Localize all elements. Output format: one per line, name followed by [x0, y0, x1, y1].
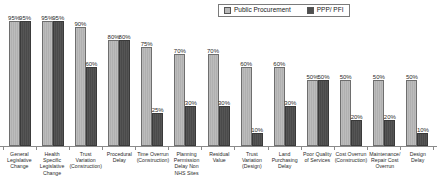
- bar-value-label: 95%: [19, 14, 31, 22]
- bar-group: 75%25%: [136, 14, 169, 146]
- chart-legend: Public Procurement PPP/ PFI: [218, 4, 350, 17]
- axis-tick: [433, 146, 434, 150]
- bar-value-label: 50%: [317, 73, 329, 81]
- bar-ppp-pfi: 30%: [219, 106, 230, 146]
- category-label: Maintenance/ Repair Cost Overrun: [368, 151, 401, 176]
- bar-group: 80%80%: [102, 14, 135, 146]
- bar-slot: 50%: [373, 14, 384, 146]
- bar-group: 90%60%: [69, 14, 102, 146]
- category-label: Procedural Delay: [103, 151, 136, 176]
- bar-public-procurement: 50%: [406, 80, 417, 146]
- bar-ppp-pfi: 60%: [86, 67, 97, 146]
- bar-ppp-pfi: 25%: [152, 113, 163, 146]
- bar-slot: 10%: [252, 14, 263, 146]
- bar-ppp-pfi: 30%: [185, 106, 196, 146]
- bar-group: 70%30%: [169, 14, 202, 146]
- bar-value-label: 50%: [373, 73, 385, 81]
- axis-tick: [201, 146, 202, 150]
- bar-group: 50%10%: [401, 14, 434, 146]
- bar-value-label: 60%: [240, 60, 252, 68]
- bar-group: 50%50%: [301, 14, 334, 146]
- bar-slot: 90%: [75, 14, 86, 146]
- legend-item-ppp-pfi: PPP/ PFI: [307, 7, 344, 14]
- category-label: Planning Permission Delay Non NHS Sites: [170, 151, 203, 176]
- bar-public-procurement: 95%: [42, 21, 53, 146]
- axis-tick: [334, 146, 335, 150]
- bar-chart: Public Procurement PPP/ PFI 95%95%95%95%…: [0, 0, 437, 193]
- bar-value-label: 30%: [284, 99, 296, 107]
- bar-ppp-pfi: 10%: [417, 133, 428, 146]
- axis-tick: [69, 146, 70, 150]
- bar-value-label: 95%: [52, 14, 64, 22]
- legend-label-public-procurement: Public Procurement: [234, 7, 291, 14]
- bar-ppp-pfi: 80%: [119, 40, 130, 146]
- axis-tick: [102, 146, 103, 150]
- category-label: General Legislative Change: [3, 151, 36, 176]
- bar-public-procurement: 75%: [141, 47, 152, 146]
- bar-value-label: 10%: [417, 126, 429, 134]
- bar-slot: 70%: [174, 14, 185, 146]
- axis-tick: [234, 146, 235, 150]
- bar-public-procurement: 80%: [108, 40, 119, 146]
- bar-slot: 50%: [340, 14, 351, 146]
- bar-public-procurement: 60%: [274, 67, 285, 146]
- bar-value-label: 25%: [152, 106, 164, 114]
- bar-group: 60%10%: [235, 14, 268, 146]
- bar-ppp-pfi: 50%: [318, 80, 329, 146]
- bar-ppp-pfi: 30%: [285, 106, 296, 146]
- bar-value-label: 75%: [141, 40, 153, 48]
- bar-value-label: 60%: [273, 60, 285, 68]
- bar-public-procurement: 50%: [340, 80, 351, 146]
- category-label: Time Overrun (Construction): [136, 151, 171, 176]
- bar-ppp-pfi: 10%: [252, 133, 263, 146]
- bar-slot: 95%: [9, 14, 20, 146]
- bar-group: 95%95%: [36, 14, 69, 146]
- category-label: Trust Variation (Construction): [68, 151, 103, 176]
- bar-value-label: 50%: [340, 73, 352, 81]
- legend-item-public-procurement: Public Procurement: [224, 7, 291, 14]
- bar-slot: 30%: [185, 14, 196, 146]
- category-label: Trust Variation (Design): [236, 151, 269, 176]
- x-axis-category-labels: General Legislative ChangeHealth Specifi…: [0, 151, 437, 176]
- category-label: Cost Overrun (Construction): [334, 151, 369, 176]
- category-label: Design Delay: [401, 151, 434, 176]
- axis-tick: [135, 146, 136, 150]
- bar-group: 70%30%: [202, 14, 235, 146]
- bar-slot: 20%: [351, 14, 362, 146]
- bar-slot: 75%: [141, 14, 152, 146]
- bar-public-procurement: 90%: [75, 27, 86, 146]
- axis-tick: [268, 146, 269, 150]
- bar-slot: 50%: [307, 14, 318, 146]
- bar-slot: 30%: [285, 14, 296, 146]
- category-label: Residual Value: [203, 151, 236, 176]
- axis-tick: [367, 146, 368, 150]
- bar-public-procurement: 60%: [241, 67, 252, 146]
- bar-value-label: 70%: [207, 47, 219, 55]
- bar-ppp-pfi: 95%: [53, 21, 64, 146]
- axis-tick: [36, 146, 37, 150]
- bar-public-procurement: 50%: [373, 80, 384, 146]
- axis-tick: [301, 146, 302, 150]
- x-axis-ticks: [0, 146, 437, 150]
- bar-slot: 95%: [20, 14, 31, 146]
- bar-ppp-pfi: 20%: [351, 120, 362, 146]
- bar-value-label: 50%: [406, 73, 418, 81]
- bar-public-procurement: 50%: [307, 80, 318, 146]
- bar-value-label: 20%: [384, 113, 396, 121]
- bar-value-label: 30%: [218, 99, 230, 107]
- axis-tick: [400, 146, 401, 150]
- bar-group: 50%20%: [368, 14, 401, 146]
- bar-value-label: 20%: [351, 113, 363, 121]
- legend-swatch-ppp-pfi: [307, 7, 314, 14]
- axis-tick: [3, 146, 4, 150]
- bar-group: 50%20%: [335, 14, 368, 146]
- bar-ppp-pfi: 20%: [384, 120, 395, 146]
- bar-slot: 10%: [417, 14, 428, 146]
- bar-slot: 25%: [152, 14, 163, 146]
- category-label: Land Purchasing Delay: [268, 151, 301, 176]
- bar-slot: 70%: [208, 14, 219, 146]
- category-label: Health Specific Legislative Change: [36, 151, 69, 176]
- legend-swatch-public-procurement: [224, 7, 231, 14]
- category-label: Poor Quality of Services: [301, 151, 334, 176]
- bar-slot: 60%: [274, 14, 285, 146]
